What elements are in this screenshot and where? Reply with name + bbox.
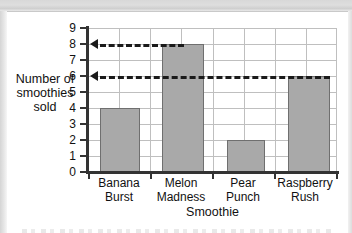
y-tick-6 (80, 75, 87, 77)
plot-top-gridline (88, 28, 337, 29)
y-tick-1 (80, 155, 87, 157)
annotation-arrowhead-6 (90, 71, 98, 81)
x-tick-label-pear-punch: Pear Punch (210, 177, 276, 204)
y-tick-label-5: 5 (56, 86, 76, 98)
x-label-line-1: Melon (148, 177, 214, 191)
x-tick-label-melon-madness: Melon Madness (148, 177, 214, 204)
x-label-line-2: Punch (210, 191, 276, 205)
bar-chart: Number of smoothies sold 9 8 7 6 5 4 3 2 (0, 0, 352, 233)
y-tick-label-8: 8 (56, 38, 76, 50)
y-tick-0 (80, 171, 87, 173)
bar-raspberry-rush (288, 76, 330, 172)
y-tick-label-0: 0 (56, 166, 76, 178)
annotation-dashed-line-6 (100, 76, 330, 79)
x-label-line-2: Madness (148, 191, 214, 205)
y-tick-9 (80, 27, 87, 29)
y-tick-label-6: 6 (56, 70, 76, 82)
scanned-page: Number of smoothies sold 9 8 7 6 5 4 3 2 (0, 0, 352, 233)
x-label-line-1: Raspberry (272, 177, 338, 191)
y-tick-label-4: 4 (56, 102, 76, 114)
y-tick-label-7: 7 (56, 54, 76, 66)
y-tick-8 (80, 43, 87, 45)
x-label-line-2: Burst (86, 191, 152, 205)
x-label-line-1: Pear (210, 177, 276, 191)
y-tick-2 (80, 139, 87, 141)
y-tick-label-3: 3 (56, 118, 76, 130)
x-axis-title: Smoothie (88, 205, 337, 219)
annotation-arrowhead-8 (90, 39, 98, 49)
y-tick-4 (80, 107, 87, 109)
y-tick-label-1: 1 (56, 150, 76, 162)
x-label-line-1: Banana (86, 177, 152, 191)
y-tick-5 (80, 91, 87, 93)
annotation-dashed-line-8 (100, 44, 184, 47)
bar-melon-madness (162, 44, 204, 172)
plot-right-gridline (336, 28, 337, 172)
bar-pear-punch (227, 140, 265, 172)
x-tick-label-raspberry-rush: Raspberry Rush (272, 177, 338, 204)
y-tick-label-9: 9 (56, 22, 76, 34)
y-tick-7 (80, 59, 87, 61)
y-tick-label-2: 2 (56, 134, 76, 146)
y-tick-3 (80, 123, 87, 125)
x-label-line-2: Rush (272, 191, 338, 205)
bar-banana-burst (100, 108, 140, 172)
y-axis-line (86, 26, 89, 174)
x-tick-label-banana-burst: Banana Burst (86, 177, 152, 204)
